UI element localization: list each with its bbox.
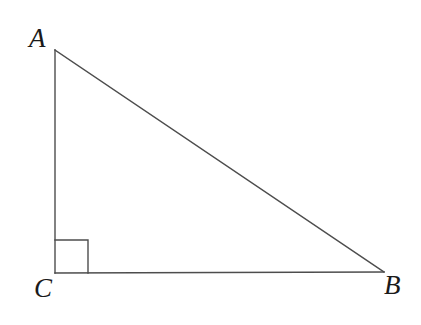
vertex-label-b: B <box>384 272 401 299</box>
right-angle-marker-icon <box>55 240 88 273</box>
vertex-label-c: C <box>34 275 52 302</box>
vertex-label-a: A <box>29 25 46 52</box>
hypotenuse-AB <box>55 50 384 272</box>
triangle-drawing-canvas <box>0 0 421 325</box>
leg-horizontal-CB <box>55 272 384 273</box>
geometry-figure: A C B <box>0 0 421 325</box>
